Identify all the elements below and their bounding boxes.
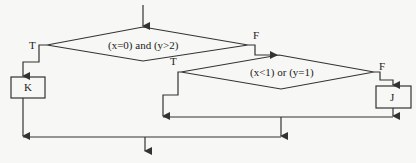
process-j-label: J [390,91,394,103]
decision2-true-label: T [170,55,177,67]
decision2-false-label: F [379,60,385,72]
decision2-condition: (x<1) or (y=1) [250,66,314,78]
decision1-false-path [248,45,277,55]
decision1-true-label: T [29,39,36,51]
decision1-condition: (x=0) and (y>2) [108,39,178,51]
process-k-label: K [24,81,32,93]
decision1-false-label: F [253,29,259,41]
decision2-false-path [374,72,393,85]
decision2-true-path [163,72,181,116]
flowchart-canvas [0,0,416,163]
